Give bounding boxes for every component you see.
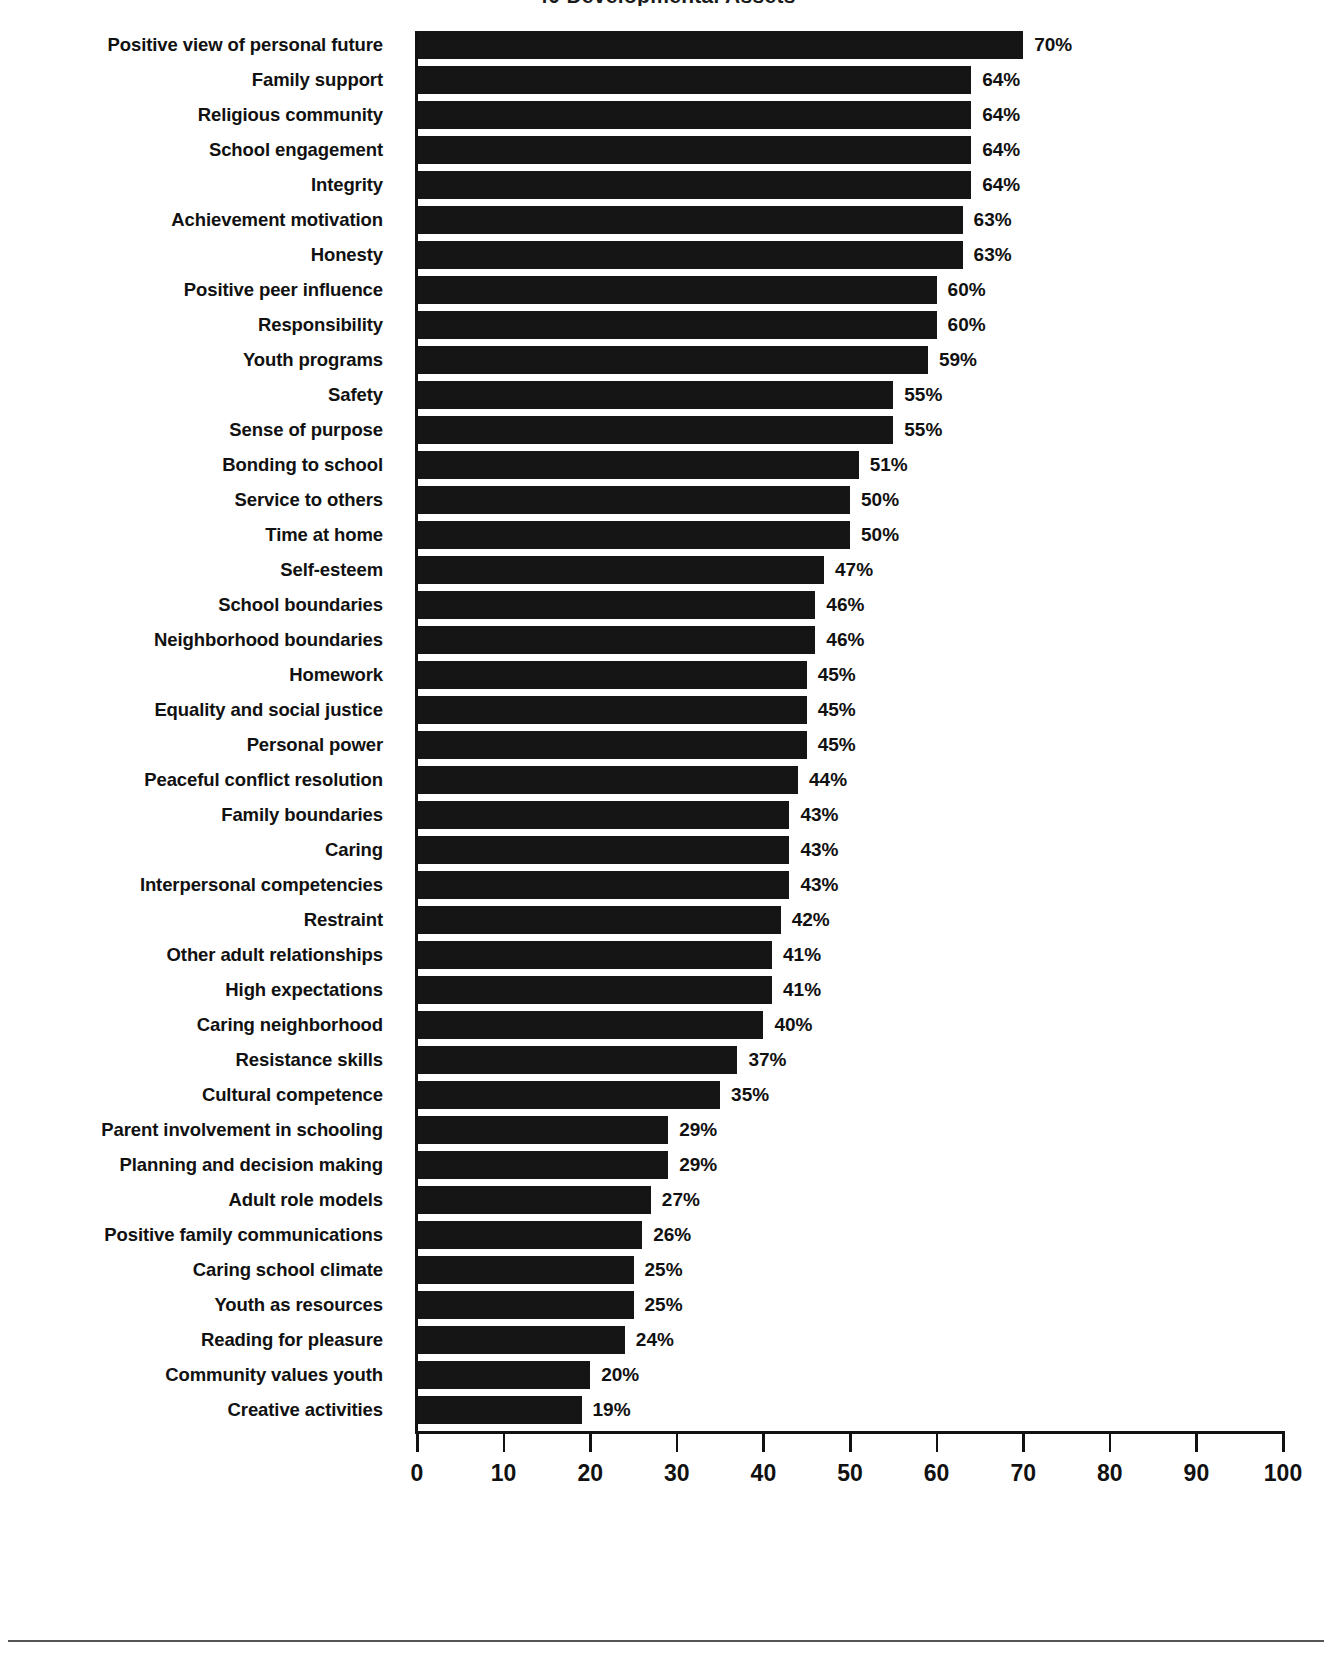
bar-value-label: 46% (815, 626, 864, 654)
x-axis-tick-label: 60 (924, 1460, 950, 1487)
bar-row: Religious community64% (0, 101, 1332, 129)
bar (417, 171, 971, 199)
bar-row: Parent involvement in schooling29% (0, 1116, 1332, 1144)
bar-value-label: 40% (763, 1011, 812, 1039)
bar-value-label: 70% (1023, 31, 1072, 59)
bar-row: Resistance skills37% (0, 1046, 1332, 1074)
x-axis-tick-label: 70 (1010, 1460, 1036, 1487)
bar (417, 1291, 634, 1319)
bar-track: 59% (417, 346, 1283, 374)
bar (417, 906, 781, 934)
bar-value-label: 55% (893, 416, 942, 444)
category-label: Parent involvement in schooling (0, 1116, 383, 1144)
category-label: Bonding to school (0, 451, 383, 479)
bar (417, 521, 850, 549)
x-axis-tick (936, 1434, 939, 1452)
bar (417, 486, 850, 514)
bar (417, 1011, 763, 1039)
bar-row: High expectations41% (0, 976, 1332, 1004)
x-axis-tick-label: 30 (664, 1460, 690, 1487)
bar-track: 55% (417, 416, 1283, 444)
category-label: Neighborhood boundaries (0, 626, 383, 654)
x-axis-tick (1195, 1434, 1198, 1452)
bar-row: Safety55% (0, 381, 1332, 409)
bar-value-label: 45% (807, 661, 856, 689)
x-axis-tick (1022, 1434, 1025, 1452)
category-label: Reading for pleasure (0, 1326, 383, 1354)
bar-track: 46% (417, 626, 1283, 654)
x-axis-tick-label: 90 (1184, 1460, 1210, 1487)
bar-value-label: 64% (971, 101, 1020, 129)
bar-row: Family support64% (0, 66, 1332, 94)
bar (417, 836, 789, 864)
bar-row: Bonding to school51% (0, 451, 1332, 479)
bar (417, 136, 971, 164)
category-label: Religious community (0, 101, 383, 129)
horizontal-bar-chart: Positive view of personal future70%Famil… (0, 0, 1332, 1658)
category-label: High expectations (0, 976, 383, 1004)
bar (417, 31, 1023, 59)
x-axis-tick (762, 1434, 765, 1452)
category-label: Family support (0, 66, 383, 94)
bar (417, 101, 971, 129)
bar (417, 416, 893, 444)
category-label: Planning and decision making (0, 1151, 383, 1179)
bar (417, 1221, 642, 1249)
bar-row: Youth programs59% (0, 346, 1332, 374)
bar-value-label: 26% (642, 1221, 691, 1249)
bar-row: Adult role models27% (0, 1186, 1332, 1214)
bar-row: Responsibility60% (0, 311, 1332, 339)
bar-track: 35% (417, 1081, 1283, 1109)
category-label: Adult role models (0, 1186, 383, 1214)
category-label: Creative activities (0, 1396, 383, 1424)
bar-value-label: 37% (737, 1046, 786, 1074)
bar-row: School engagement64% (0, 136, 1332, 164)
category-label: Service to others (0, 486, 383, 514)
bar-value-label: 24% (625, 1326, 674, 1354)
bar-value-label: 60% (937, 311, 986, 339)
x-axis-tick (849, 1434, 852, 1452)
bar (417, 381, 893, 409)
bar-row: Self-esteem47% (0, 556, 1332, 584)
bar-value-label: 43% (789, 871, 838, 899)
bar-track: 41% (417, 976, 1283, 1004)
bar-value-label: 45% (807, 731, 856, 759)
bar-value-label: 43% (789, 836, 838, 864)
y-axis-line (415, 31, 418, 1431)
bar-value-label: 63% (963, 241, 1012, 269)
bar-row: Reading for pleasure24% (0, 1326, 1332, 1354)
bar-track: 45% (417, 696, 1283, 724)
bar-track: 42% (417, 906, 1283, 934)
bar-value-label: 51% (859, 451, 908, 479)
bar-value-label: 29% (668, 1116, 717, 1144)
bar-value-label: 42% (781, 906, 830, 934)
bar-row: Creative activities19% (0, 1396, 1332, 1424)
bar-row: Equality and social justice45% (0, 696, 1332, 724)
bar (417, 1361, 590, 1389)
bar-track: 25% (417, 1291, 1283, 1319)
category-label: Equality and social justice (0, 696, 383, 724)
x-axis-tick-label: 80 (1097, 1460, 1123, 1487)
category-label: Responsibility (0, 311, 383, 339)
bar-track: 60% (417, 276, 1283, 304)
bar-row: Other adult relationships41% (0, 941, 1332, 969)
bar-value-label: 41% (772, 976, 821, 1004)
bar-value-label: 45% (807, 696, 856, 724)
bar-row: Restraint42% (0, 906, 1332, 934)
bar-track: 47% (417, 556, 1283, 584)
bar-track: 40% (417, 1011, 1283, 1039)
bar (417, 241, 963, 269)
bar-track: 43% (417, 871, 1283, 899)
bar (417, 276, 937, 304)
category-label: Self-esteem (0, 556, 383, 584)
bar-track: 64% (417, 136, 1283, 164)
x-axis-tick-label: 10 (491, 1460, 517, 1487)
bar (417, 626, 815, 654)
bar (417, 1116, 668, 1144)
bar-track: 45% (417, 661, 1283, 689)
bar-row: Service to others50% (0, 486, 1332, 514)
bar-value-label: 25% (634, 1256, 683, 1284)
bar-track: 63% (417, 241, 1283, 269)
bar (417, 451, 859, 479)
bar-track: 55% (417, 381, 1283, 409)
